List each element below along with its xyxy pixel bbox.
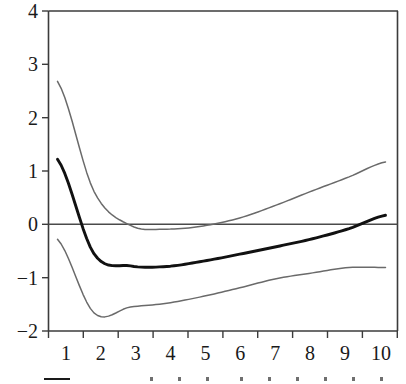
legend-dot (352, 377, 355, 381)
x-tick-label-9: 9 (340, 342, 350, 364)
x-tick-label-7: 7 (270, 342, 280, 364)
x-tick-label-5: 5 (200, 342, 210, 364)
y-tick-marks (42, 11, 49, 331)
legend-dot (296, 377, 299, 381)
y-tick-label-1: 1 (28, 160, 38, 182)
legend-dot (150, 377, 153, 381)
y-tick-label-3: 3 (28, 53, 38, 75)
legend-strip (0, 364, 406, 384)
legend-dot (324, 377, 327, 381)
legend-dot (178, 377, 181, 381)
legend-dashed-swatch-group (150, 375, 400, 381)
legend-dot (380, 377, 383, 381)
x-tick-marks (49, 331, 398, 338)
point-estimate-line (58, 159, 386, 267)
x-tick-label-10: 10 (371, 342, 391, 364)
legend-dot (240, 377, 243, 381)
chart-container: 4 3 2 1 0 −1 −2 (0, 0, 406, 384)
x-tick-label-1: 1 (61, 342, 71, 364)
lower-confidence-band-line (58, 239, 386, 317)
x-axis-group: 1 2 3 4 5 6 7 8 9 10 (49, 11, 399, 364)
y-tick-label-neg2: −2 (17, 320, 38, 342)
impulse-response-chart: 4 3 2 1 0 −1 −2 (0, 0, 406, 384)
x-tick-label-4: 4 (166, 342, 176, 364)
upper-confidence-band-line (58, 81, 386, 229)
x-tick-label-3: 3 (131, 342, 141, 364)
y-tick-label-neg1: −1 (17, 267, 38, 289)
y-tick-label-2: 2 (28, 107, 38, 129)
y-tick-label-0: 0 (28, 213, 38, 235)
y-tick-label-4: 4 (28, 0, 38, 22)
x-tick-label-6: 6 (235, 342, 245, 364)
x-tick-label-8: 8 (305, 342, 315, 364)
legend-dot (268, 377, 271, 381)
y-axis-group: 4 3 2 1 0 −1 −2 (17, 0, 49, 342)
legend-dot (206, 377, 209, 381)
legend-solid-line-swatch (44, 378, 70, 380)
x-tick-label-2: 2 (96, 342, 106, 364)
